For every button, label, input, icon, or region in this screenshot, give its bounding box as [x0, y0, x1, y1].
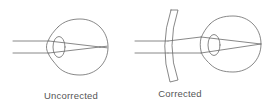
uncorrected-eye-group: [13, 19, 108, 75]
diagram-graphic: [0, 0, 271, 109]
concave-corrective-lens: [165, 10, 178, 82]
corrected-eye-group: [135, 10, 261, 82]
focused-ray-bottom: [201, 44, 261, 53]
crystalline-lens: [53, 37, 65, 58]
caption-corrected: Corrected: [158, 88, 202, 99]
refracted-ray-top: [49, 41, 100, 47]
refracted-ray-bottom: [49, 47, 100, 53]
diverged-ray-top: [168, 37, 201, 41]
caption-uncorrected: Uncorrected: [44, 90, 98, 101]
crystalline-lens: [208, 35, 220, 56]
eye-correction-diagram: Uncorrected Corrected: [0, 0, 271, 109]
eyeball-outline: [200, 16, 261, 72]
focused-ray-top: [201, 37, 261, 44]
diverging-ray-bottom: [100, 46, 107, 47]
